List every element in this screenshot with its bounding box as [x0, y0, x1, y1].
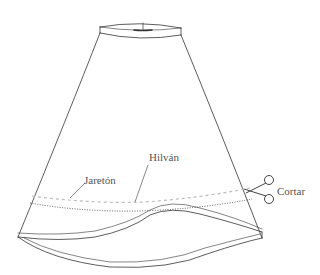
- hem-fold: [18, 204, 262, 268]
- jareton-leader: [70, 183, 85, 198]
- tuck-line: [30, 199, 252, 211]
- skirt-left-edge: [18, 33, 100, 237]
- label-cortar: Cortar: [277, 186, 305, 197]
- waistband: [100, 23, 181, 38]
- hilvan-leader: [135, 165, 148, 202]
- skirt-diagram: Hilván Jaretón Cortar: [0, 0, 320, 275]
- skirt-right-edge: [181, 35, 262, 238]
- label-jareton: Jaretón: [84, 175, 116, 186]
- basting-line: [32, 188, 250, 202]
- scissors-icon: [244, 176, 274, 204]
- label-hilvan: Hilván: [149, 152, 179, 163]
